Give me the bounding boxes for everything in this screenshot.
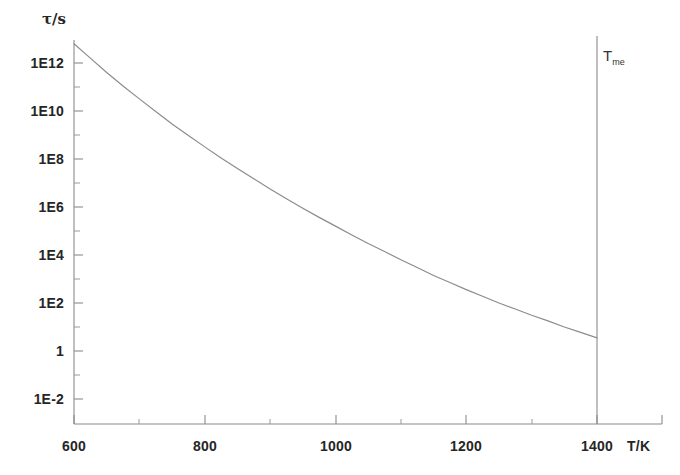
x-axis-title: T/K <box>627 438 650 454</box>
y-axis-title: τ/s <box>42 10 66 28</box>
x-tick-label-1000: 1000 <box>320 438 352 454</box>
relaxation-time-curve <box>74 44 597 338</box>
x-tick-label-800: 800 <box>193 438 217 454</box>
y-tick-label-1e-2: 1E-2 <box>12 391 64 407</box>
y-tick-label-1e12: 1E12 <box>12 55 64 71</box>
y-tick-label-1e2: 1E2 <box>12 295 64 311</box>
melting-temperature-label: Tme <box>603 47 625 67</box>
y-tick-label-1e6: 1E6 <box>12 199 64 215</box>
chart-plot-area <box>0 0 680 475</box>
melting-temperature-label-main: T <box>603 47 612 64</box>
x-tick-label-1400: 1400 <box>581 438 613 454</box>
y-tick-label-1e4: 1E4 <box>12 247 64 263</box>
y-tick-label-1: 1 <box>12 343 64 359</box>
y-tick-label-1e8: 1E8 <box>12 151 64 167</box>
x-axis-major-ticks <box>74 415 662 424</box>
y-axis-minor-ticks <box>74 87 80 375</box>
x-tick-label-600: 600 <box>62 438 86 454</box>
y-tick-label-1e10: 1E10 <box>12 103 64 119</box>
chart-figure: 1E12 1E10 1E8 1E6 1E4 1E2 1 1E-2 600 800… <box>0 0 680 475</box>
melting-temperature-label-sub: me <box>612 57 625 67</box>
x-tick-label-1200: 1200 <box>450 438 482 454</box>
